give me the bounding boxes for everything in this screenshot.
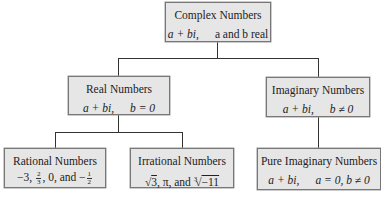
formula-left: a + bi, (83, 102, 114, 114)
connector-real-down (118, 115, 119, 132)
formula-right: a and b real (215, 28, 268, 40)
fraction-two-thirds: 23 (36, 171, 42, 186)
node-examples: −3, 23, 0, and −12 (5, 170, 105, 186)
connector-level2-horizontal (55, 132, 183, 133)
formula-left: a + bi, (268, 174, 299, 186)
formula-right: a = 0, b ≠ 0 (315, 174, 369, 186)
node-title: Irrational Numbers (131, 154, 233, 168)
connector-complex-down (217, 42, 218, 58)
node-complex-numbers: Complex Numbers a + bi,a and b real (165, 2, 271, 42)
fraction-one-half: 12 (87, 171, 93, 186)
node-rational-numbers: Rational Numbers −3, 23, 0, and −12 (4, 148, 106, 188)
connector-to-imaginary (318, 58, 319, 77)
connector-to-irrational (182, 132, 183, 148)
connector-to-rational (55, 132, 56, 148)
node-title: Pure Imaginary Numbers (258, 154, 380, 168)
node-formula: a + bi,a = 0, b ≠ 0 (258, 173, 380, 187)
node-irrational-numbers: Irrational Numbers √3, π, and 3√−11 (130, 148, 234, 188)
node-pure-imaginary-numbers: Pure Imaginary Numbers a + bi,a = 0, b ≠… (257, 148, 381, 190)
formula-right: b = 0 (130, 102, 155, 114)
node-formula: a + bi,b = 0 (69, 101, 169, 115)
formula-left: a + bi, (283, 103, 314, 115)
node-formula: a + bi,b ≠ 0 (267, 102, 369, 116)
connector-to-pure-imaginary (318, 117, 319, 148)
connector-level1-horizontal (118, 58, 318, 59)
formula-left: a + bi, (168, 28, 199, 40)
connector-to-real (118, 58, 119, 76)
node-title: Imaginary Numbers (267, 83, 369, 97)
node-title: Complex Numbers (166, 8, 270, 22)
node-title: Rational Numbers (5, 154, 105, 168)
node-examples: √3, π, and 3√−11 (131, 172, 233, 189)
node-formula: a + bi,a and b real (166, 27, 270, 41)
node-real-numbers: Real Numbers a + bi,b = 0 (68, 76, 170, 115)
formula-right: b ≠ 0 (330, 103, 354, 115)
node-title: Real Numbers (69, 82, 169, 96)
node-imaginary-numbers: Imaginary Numbers a + bi,b ≠ 0 (266, 77, 370, 117)
